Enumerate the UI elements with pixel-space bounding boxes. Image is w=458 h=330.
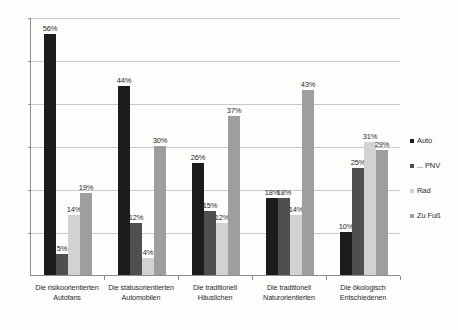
x-axis-tick-mark [104, 276, 105, 280]
legend-label: Zu Fuß [417, 211, 441, 220]
bar[interactable] [266, 198, 278, 275]
category-label-line: Die traditionell [178, 283, 252, 293]
x-axis-tick-mark [252, 276, 253, 280]
bar-slot: 25% [352, 18, 364, 275]
category-label-line: Die ökologisch [326, 283, 400, 293]
bar[interactable] [118, 86, 130, 275]
bar-slot: 29% [376, 18, 388, 275]
x-axis-tick-mark [400, 276, 401, 280]
bar-value-label: 43% [301, 80, 316, 89]
bar-group: 26%15%12%37% [179, 18, 253, 275]
x-axis-category-label: Die traditionellNaturorientierten [252, 283, 326, 302]
legend-label: Rad [417, 186, 430, 195]
bar[interactable] [44, 34, 56, 275]
chart-legend: Auto... PNVRadZu Fuß [410, 128, 458, 228]
category-label-line: Häuslichen [178, 293, 252, 303]
bar-group: 18%18%14%43% [253, 18, 327, 275]
bar[interactable] [376, 150, 388, 275]
bar-value-label: 5% [57, 244, 68, 253]
legend-label: Auto [417, 136, 432, 145]
category-label-line: Autofans [30, 293, 104, 303]
legend-item[interactable]: ... PNV [410, 153, 458, 178]
x-axis-tick-mark [326, 276, 327, 280]
bar[interactable] [130, 223, 142, 275]
bar-slot: 10% [340, 18, 352, 275]
bar[interactable] [228, 116, 240, 275]
bar-slot: 5% [56, 18, 68, 275]
legend-swatch-icon [410, 189, 414, 193]
legend-label: ... PNV [417, 161, 440, 170]
bar-slot: 44% [118, 18, 130, 275]
bar-slot: 15% [204, 18, 216, 275]
category-label-line: Die statusorientierten [104, 283, 178, 293]
x-axis-category-label: Die traditionellHäuslichen [178, 283, 252, 302]
legend-swatch-icon [410, 139, 414, 143]
x-axis-category-label: Die statusorientiertenAutomobilen [104, 283, 178, 302]
legend-item[interactable]: Zu Fuß [410, 203, 458, 228]
bar[interactable] [56, 254, 68, 276]
bar-slot: 19% [80, 18, 92, 275]
bar-group: 44%12%4%30% [105, 18, 179, 275]
bar[interactable] [192, 163, 204, 275]
bar-value-label: 4% [143, 248, 154, 257]
bar[interactable] [340, 232, 352, 275]
bar-value-label: 30% [153, 136, 168, 145]
bar-slot: 12% [130, 18, 142, 275]
bar-slot: 12% [216, 18, 228, 275]
bar-value-label: 29% [375, 140, 390, 149]
x-axis-category-label: Die risikoorientiertenAutofans [30, 283, 104, 302]
legend-swatch-icon [410, 214, 414, 218]
category-label-line: Entschiedenen [326, 293, 400, 303]
bar[interactable] [142, 258, 154, 275]
bar-slot: 18% [266, 18, 278, 275]
bar-slot: 30% [154, 18, 166, 275]
category-label-line: Die risikoorientierten [30, 283, 104, 293]
x-axis-tick-mark [178, 276, 179, 280]
bar[interactable] [80, 193, 92, 275]
bar-slot: 14% [68, 18, 80, 275]
bar-slot: 14% [290, 18, 302, 275]
bar[interactable] [216, 223, 228, 275]
category-label-line: Naturorientierten [252, 293, 326, 303]
legend-item[interactable]: Rad [410, 178, 458, 203]
bar[interactable] [352, 168, 364, 276]
bar-slot: 4% [142, 18, 154, 275]
bar-chart: 10203040506056%5%14%19%44%12%4%30%26%15%… [0, 0, 458, 330]
bar-slot: 43% [302, 18, 314, 275]
category-label-line: Die traditionell [252, 283, 326, 293]
legend-swatch-icon [410, 164, 414, 168]
bar-value-label: 37% [227, 106, 242, 115]
x-axis-category-label: Die ökologischEntschiedenen [326, 283, 400, 302]
bar[interactable] [68, 215, 80, 275]
bar-slot: 26% [192, 18, 204, 275]
bar[interactable] [154, 146, 166, 275]
bar[interactable] [290, 215, 302, 275]
bar[interactable] [302, 90, 314, 275]
bar-group: 10%25%31%29% [327, 18, 401, 275]
legend-item[interactable]: Auto [410, 128, 458, 153]
bar-group: 56%5%14%19% [31, 18, 105, 275]
category-label-line: Automobilen [104, 293, 178, 303]
bar-slot: 56% [44, 18, 56, 275]
bar-slot: 37% [228, 18, 240, 275]
bar-value-label: 19% [79, 183, 94, 192]
bar-slot: 18% [278, 18, 290, 275]
plot-area: 10203040506056%5%14%19%44%12%4%30%26%15%… [30, 18, 400, 276]
bar[interactable] [364, 142, 376, 275]
